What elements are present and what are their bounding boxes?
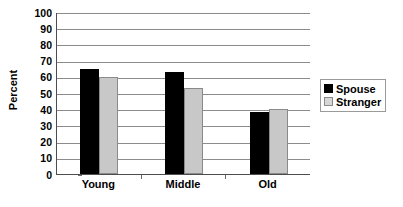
y-tick-label: 0 <box>26 170 52 181</box>
bar-group <box>250 13 288 174</box>
y-tick-label: 10 <box>26 153 52 164</box>
y-axis-tick-labels: 0102030405060708090100 <box>26 7 52 175</box>
legend-swatch-icon <box>324 84 333 93</box>
legend-entry: Stranger <box>324 95 381 108</box>
x-tick-label: Middle <box>143 178 223 190</box>
y-tick-label: 60 <box>26 72 52 83</box>
y-tick-label: 40 <box>26 105 52 116</box>
legend-label: Spouse <box>336 83 376 95</box>
x-tick-mark <box>141 175 142 179</box>
y-tick-label: 50 <box>26 89 52 100</box>
y-tick-label: 30 <box>26 121 52 132</box>
bar <box>165 72 184 174</box>
bar-group <box>165 13 203 174</box>
bar <box>80 69 99 174</box>
legend-entry: Spouse <box>324 82 381 95</box>
y-tick-label: 70 <box>26 56 52 67</box>
y-tick-label: 100 <box>26 8 52 19</box>
bars-layer <box>57 13 310 174</box>
bar <box>269 109 288 174</box>
bar-group <box>80 13 118 174</box>
x-tick-label: Young <box>58 178 138 190</box>
legend-swatch-icon <box>324 97 333 106</box>
plot-area <box>56 13 310 175</box>
x-tick-mark <box>225 175 226 179</box>
bar <box>99 77 118 174</box>
y-tick-mark <box>78 175 82 176</box>
x-tick-label: Old <box>228 178 308 190</box>
y-axis-title: Percent <box>7 60 19 120</box>
bar-chart: Percent 0102030405060708090100 YoungMidd… <box>0 0 403 207</box>
legend: SpouseStranger <box>320 79 386 112</box>
legend-label: Stranger <box>336 96 381 108</box>
y-tick-label: 20 <box>26 137 52 148</box>
x-axis-tick-labels: YoungMiddleOld <box>56 178 310 196</box>
y-tick-label: 80 <box>26 40 52 51</box>
y-tick-label: 90 <box>26 24 52 35</box>
bar <box>250 112 269 174</box>
bar <box>184 88 203 174</box>
